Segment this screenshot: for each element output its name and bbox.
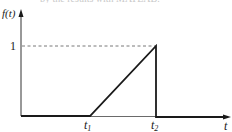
t2-label: t2: [151, 118, 158, 132]
function-curve: [21, 46, 226, 117]
y-axis-arrow-icon: [19, 9, 24, 17]
chart-svg: f(t) 1 t1 t2 t: [0, 0, 232, 132]
t1-label: t1: [84, 118, 91, 132]
x-axis-label: t: [224, 119, 228, 132]
y-axis-label: f(t): [2, 7, 16, 20]
y-tick-one: 1: [10, 39, 16, 53]
